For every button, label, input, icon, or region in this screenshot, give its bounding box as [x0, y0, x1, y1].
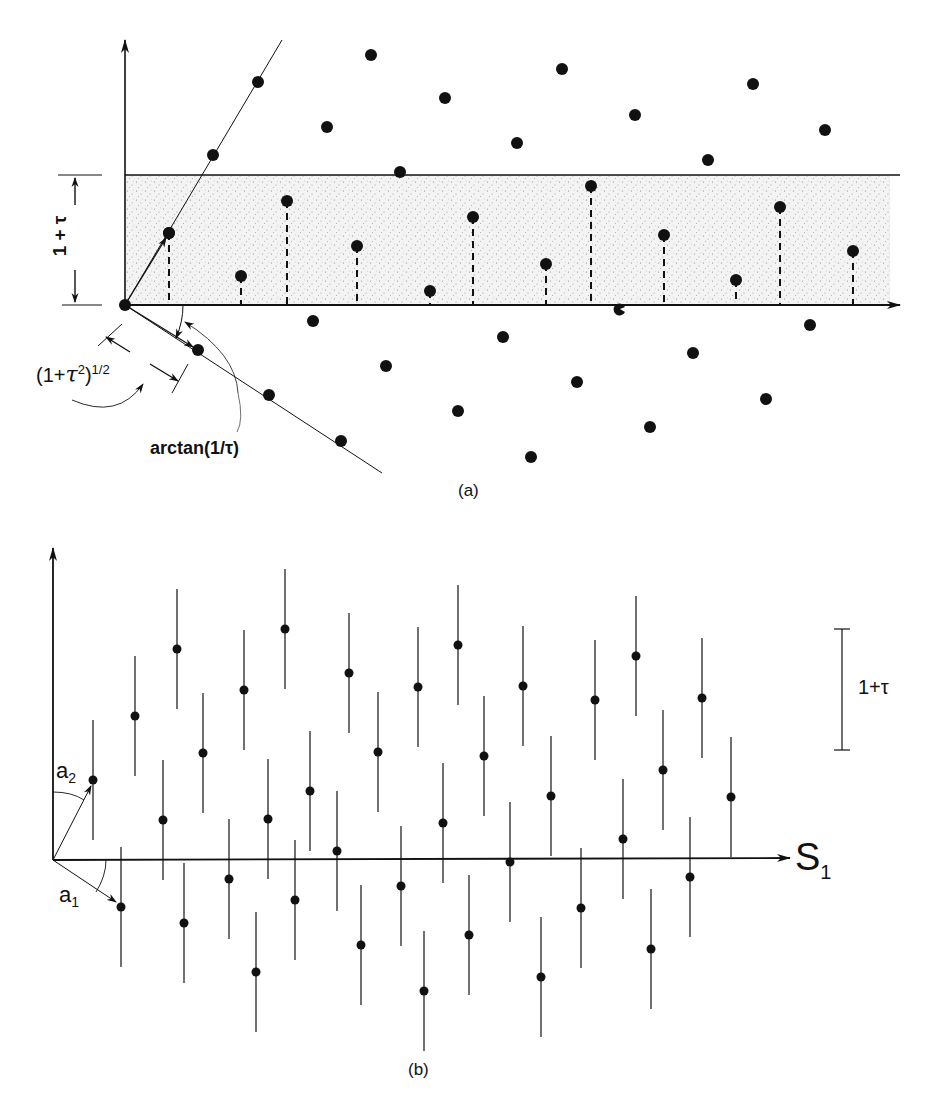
lattice-point [291, 896, 300, 905]
lattice-point [687, 347, 699, 359]
lattice-point [506, 858, 515, 867]
axis-s1-subscript: 1 [820, 861, 831, 883]
vector-a2-label: a2 [56, 758, 76, 786]
lattice-point [335, 435, 347, 447]
figure-canvas [0, 0, 931, 1094]
lattice-point [467, 211, 479, 223]
lattice-point [730, 274, 742, 286]
lattice-point [727, 793, 736, 802]
lattice-point [240, 686, 249, 695]
band-height-label: 1 + τ [49, 196, 71, 276]
lattice-point [439, 819, 448, 828]
lattice-point [424, 285, 436, 297]
length-label-leader [72, 384, 143, 407]
lattice-point [173, 645, 182, 654]
length-label-square: 2 [78, 362, 85, 377]
lattice-point [525, 451, 537, 463]
lattice-point [585, 180, 597, 192]
angle-arc-a1 [96, 860, 106, 892]
lattice-point [760, 393, 772, 405]
lattice-point [225, 875, 234, 884]
lattice-point [306, 787, 315, 796]
lattice-point [414, 683, 423, 692]
lattice-point [281, 195, 293, 207]
lattice-point [365, 49, 377, 61]
lattice-point [658, 229, 670, 241]
lattice-point [163, 227, 175, 239]
length-dim-tick-1 [98, 324, 122, 346]
lattice-point [465, 931, 474, 940]
lattice-point [659, 766, 668, 775]
caption-a-text: (a) [458, 481, 479, 500]
length-label-close: ) [85, 364, 92, 386]
lattice-point [547, 792, 556, 801]
lattice-point [619, 835, 628, 844]
lattice-point [307, 315, 319, 327]
lattice-point [117, 903, 126, 912]
lattice-point [577, 904, 586, 913]
axis-s1-letter: S [795, 836, 820, 878]
lattice-point [452, 405, 464, 417]
lattice-point [644, 421, 656, 433]
lattice-point [698, 694, 707, 703]
lattice-point [131, 712, 140, 721]
lattice-point [252, 76, 264, 88]
caption-b: (b) [408, 1060, 429, 1080]
lattice-point [199, 749, 208, 758]
length-label-exponent: 1/2 [92, 362, 110, 377]
lattice-point [394, 166, 406, 178]
lattice-point [374, 748, 383, 757]
lattice-point [702, 154, 714, 166]
caption-b-text: (b) [408, 1060, 429, 1079]
angle-label: arctan(1/τ) [150, 438, 239, 459]
lattice-point [281, 625, 290, 634]
lattice-point [263, 389, 275, 401]
length-label-tau: τ [65, 362, 77, 387]
half-lattice-point [614, 304, 625, 316]
lattice-point [192, 344, 204, 356]
vector-a2-arrow [53, 786, 91, 860]
lattice-point [357, 941, 366, 950]
origin-point [119, 299, 131, 311]
vector-a2-letter: a [56, 758, 68, 783]
lattice-point [819, 124, 831, 136]
scale-bar-label: 1+τ [858, 676, 889, 699]
lattice-point [632, 652, 641, 661]
lattice-point [252, 968, 261, 977]
lattice-point [774, 201, 786, 213]
vector-a1-letter: a [59, 882, 71, 907]
panel-a-diagram [58, 40, 900, 473]
lattice-point [235, 270, 247, 282]
length-label: (1+τ2)1/2 [36, 362, 110, 387]
angle-arc-a2 [53, 792, 84, 800]
caption-a: (a) [458, 481, 479, 501]
lattice-point [480, 752, 489, 761]
lattice-point [420, 987, 429, 996]
axis-s1-label: S1 [795, 836, 831, 884]
length-dim-arrow-right [150, 364, 178, 381]
lattice-point [497, 331, 509, 343]
lattice-point [647, 945, 656, 954]
length-dim-arrow-left [106, 337, 130, 352]
lattice-point [439, 92, 451, 104]
vector-a1-subscript: 1 [71, 894, 79, 910]
length-label-base: (1+ [36, 364, 65, 386]
lattice-point [556, 63, 568, 75]
lattice-point [333, 847, 342, 856]
panel-b-diagram [53, 548, 850, 1051]
lattice-point [264, 815, 273, 824]
lattice-point [591, 696, 600, 705]
lattice-point [511, 137, 523, 149]
lattice-point [89, 776, 98, 785]
lattice-point [345, 669, 354, 678]
angle-label-text: arctan(1/τ) [150, 438, 239, 458]
lattice-point [207, 149, 219, 161]
lattice-point [629, 109, 641, 121]
lattice-point [321, 121, 333, 133]
lattice-point [351, 240, 363, 252]
vector-a2-subscript: 2 [68, 770, 76, 786]
lattice-point [686, 873, 695, 882]
lattice-point [804, 319, 816, 331]
lattice-point [847, 245, 859, 257]
lattice-point [380, 360, 392, 372]
